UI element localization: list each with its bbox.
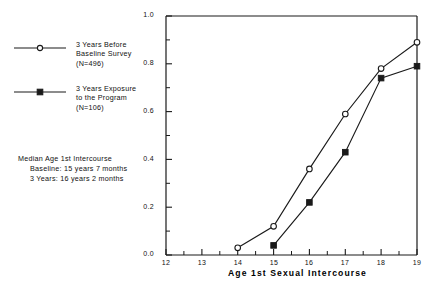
plot-area	[0, 0, 439, 286]
series-exposure	[271, 63, 420, 248]
x-axis-title: Age 1st Sexual Intercourse	[228, 268, 367, 278]
y-tick-label-0.0: 0.0	[126, 250, 154, 257]
y-tick-label-0.8: 0.8	[126, 59, 154, 66]
figure-canvas: 3 Years Before Baseline Survey (N=496) 3…	[0, 0, 439, 286]
data-point	[378, 75, 384, 81]
data-point	[414, 63, 420, 69]
data-point	[271, 224, 277, 230]
data-point	[414, 40, 420, 46]
y-tick-label-0.2: 0.2	[126, 203, 154, 210]
data-point	[343, 111, 349, 117]
x-tick-label-13: 13	[192, 259, 212, 266]
x-tick-label-18: 18	[371, 259, 391, 266]
data-point	[307, 166, 313, 172]
data-point	[235, 245, 241, 251]
x-tick-label-15: 15	[264, 259, 284, 266]
y-axis-minor-ticks	[166, 40, 170, 231]
series-baseline	[235, 40, 420, 251]
data-point	[271, 243, 277, 249]
data-point	[343, 149, 349, 155]
x-tick-label-17: 17	[335, 259, 355, 266]
y-tick-label-0.6: 0.6	[126, 107, 154, 114]
x-tick-label-16: 16	[299, 259, 319, 266]
axis-frame	[166, 16, 417, 255]
y-tick-label-1.0: 1.0	[126, 11, 154, 18]
x-tick-label-19: 19	[407, 259, 427, 266]
x-tick-label-12: 12	[156, 259, 176, 266]
data-point	[378, 66, 384, 72]
data-point	[307, 200, 313, 206]
y-tick-label-0.4: 0.4	[126, 155, 154, 162]
x-tick-label-14: 14	[228, 259, 248, 266]
